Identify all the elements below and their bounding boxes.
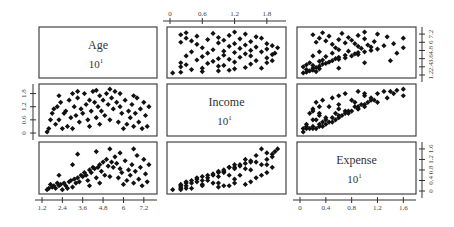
data-point xyxy=(323,38,328,43)
data-point xyxy=(80,111,85,116)
data-point xyxy=(87,98,92,103)
data-point xyxy=(170,187,175,192)
axis-bottom-expense: 00.40.81.21.6 xyxy=(293,197,416,212)
data-point xyxy=(310,32,315,37)
data-point xyxy=(336,37,341,42)
data-point xyxy=(56,173,61,178)
data-point xyxy=(210,47,215,52)
data-point xyxy=(99,169,104,174)
scale-exponent: 1 xyxy=(100,57,104,65)
tick-label: 1.2 xyxy=(230,10,239,18)
tick-label: 4.8 xyxy=(427,46,435,55)
data-point xyxy=(221,38,226,43)
data-point xyxy=(232,50,237,55)
tick-label: 6 xyxy=(427,40,435,44)
data-point xyxy=(259,36,264,41)
data-point xyxy=(264,60,269,65)
panel-frame xyxy=(167,27,286,78)
data-point xyxy=(253,58,258,63)
data-point xyxy=(210,59,215,64)
data-point xyxy=(178,32,183,37)
data-point xyxy=(232,29,237,34)
data-point xyxy=(119,111,124,116)
tick-label: 0.8 xyxy=(347,204,356,212)
tick-label: 1.6 xyxy=(427,144,435,153)
data-point xyxy=(227,68,232,73)
data-point xyxy=(243,182,248,187)
data-point xyxy=(99,108,104,113)
scale-exponent: 1 xyxy=(358,172,362,180)
data-point xyxy=(216,64,221,69)
diagonal-variable-label: Income xyxy=(209,95,245,109)
data-point xyxy=(129,102,134,107)
tick-label: 0 xyxy=(427,189,435,193)
data-point xyxy=(339,31,344,36)
data-point xyxy=(401,93,406,98)
data-point xyxy=(178,40,183,45)
data-point xyxy=(65,124,70,129)
data-point xyxy=(264,157,269,162)
data-point xyxy=(145,124,150,129)
data-point xyxy=(194,57,199,62)
data-point xyxy=(221,183,226,188)
data-point xyxy=(70,184,75,189)
data-point xyxy=(200,174,205,179)
data-point xyxy=(336,102,341,107)
scatter-panel-expense-vs-age xyxy=(297,27,416,78)
tick-label: 0.6 xyxy=(20,115,28,124)
data-point xyxy=(253,159,258,164)
data-point xyxy=(53,122,58,127)
data-point xyxy=(270,165,275,170)
data-point xyxy=(145,179,150,184)
data-point xyxy=(94,175,99,180)
tick-label: 0.4 xyxy=(427,176,435,185)
data-point xyxy=(401,45,406,50)
data-point xyxy=(330,51,335,56)
data-point xyxy=(388,58,393,63)
data-point xyxy=(264,46,269,51)
data-point xyxy=(248,53,253,58)
axis-right-expense: 00.40.81.21.6 xyxy=(419,142,435,198)
data-point xyxy=(381,43,386,48)
data-point xyxy=(253,153,258,158)
data-point xyxy=(264,150,269,155)
data-point xyxy=(107,146,112,151)
data-point xyxy=(275,45,280,50)
data-point xyxy=(264,170,269,175)
data-point xyxy=(75,89,80,94)
data-point xyxy=(56,93,61,98)
data-point xyxy=(146,162,151,167)
data-point xyxy=(248,167,253,172)
data-point xyxy=(84,102,89,107)
data-point xyxy=(381,89,386,94)
tick-label: 0.6 xyxy=(198,10,207,18)
data-point xyxy=(362,29,367,34)
data-point xyxy=(126,108,131,113)
data-point xyxy=(95,104,100,109)
data-point xyxy=(134,153,139,158)
data-point xyxy=(121,182,126,187)
data-point xyxy=(60,187,65,192)
data-point xyxy=(205,37,210,42)
tick-label: 1.8 xyxy=(262,10,271,18)
data-point xyxy=(243,65,248,70)
data-point xyxy=(73,113,78,118)
data-point xyxy=(394,51,399,56)
data-point xyxy=(124,178,129,183)
data-point xyxy=(317,49,322,54)
data-point xyxy=(205,51,210,56)
data-point xyxy=(87,124,92,129)
data-point xyxy=(136,177,141,182)
data-point xyxy=(189,38,194,43)
diagonal-scale-label: 101 xyxy=(217,114,232,127)
data-point xyxy=(232,59,237,64)
data-point xyxy=(320,98,325,103)
data-point xyxy=(189,49,194,54)
data-point xyxy=(237,173,242,178)
data-point xyxy=(78,106,83,111)
data-point xyxy=(189,186,194,191)
data-point xyxy=(126,167,131,172)
data-point xyxy=(385,95,390,100)
data-point xyxy=(336,66,341,71)
data-point xyxy=(131,181,136,186)
